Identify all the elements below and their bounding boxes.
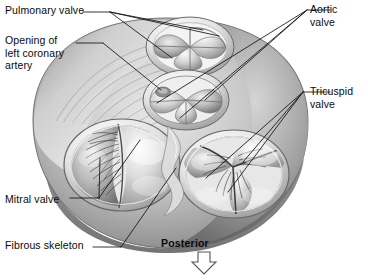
label-aortic-valve: Aortic valve	[310, 3, 337, 28]
label-pulmonary-valve: Pulmonary valve	[5, 4, 84, 17]
label-tricuspid-valve: Tricuspid valve	[310, 85, 353, 110]
pulmonary-valve	[146, 17, 234, 77]
posterior-arrow-icon	[192, 252, 216, 274]
label-left-coronary-artery-opening: Opening of left coronary artery	[5, 34, 64, 72]
label-fibrous-skeleton: Fibrous skeleton	[5, 239, 84, 252]
tricuspid-valve	[179, 130, 289, 218]
label-posterior-orientation: Posterior	[161, 237, 209, 250]
label-mitral-valve: Mitral valve	[5, 193, 59, 206]
figure-canvas: Pulmonary valve Opening of left coronary…	[0, 0, 368, 280]
aortic-valve	[143, 70, 229, 130]
